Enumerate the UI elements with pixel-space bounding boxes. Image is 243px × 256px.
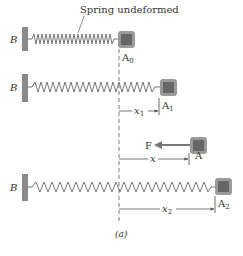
row-2-stretched-x1: B x1 A1 (9, 74, 177, 118)
force-arrowhead (154, 141, 162, 149)
displacement-label-x: x (150, 153, 156, 164)
position-label-a: A (194, 150, 203, 161)
annotation-leader-line (78, 16, 84, 33)
spring-undeformed-label: Spring undeformed (80, 4, 179, 15)
spring (28, 182, 215, 192)
figure-caption: (a) (115, 229, 128, 239)
wall-label-b: B (9, 182, 17, 193)
spring-diagram: Spring undeformed B A0 B x1 A1 F x A (0, 0, 243, 256)
wall-label-b: B (9, 82, 17, 93)
spring (28, 82, 160, 92)
row-1-undeformed: B A0 (9, 27, 135, 65)
position-label-a2: A2 (217, 198, 230, 211)
position-label-a0: A0 (121, 52, 134, 65)
row-3-force: F x A (119, 137, 207, 165)
wall (22, 174, 28, 201)
spring (28, 34, 118, 44)
block-inner (218, 181, 229, 192)
position-label-a1: A1 (161, 100, 174, 113)
wall (22, 74, 28, 102)
wall (22, 27, 28, 51)
wall-label-b: B (9, 34, 17, 45)
force-label-f: F (145, 140, 152, 151)
block-inner (121, 34, 132, 45)
row-4-stretched-x2: B x2 A2 (9, 174, 232, 216)
block-inner (163, 82, 174, 93)
